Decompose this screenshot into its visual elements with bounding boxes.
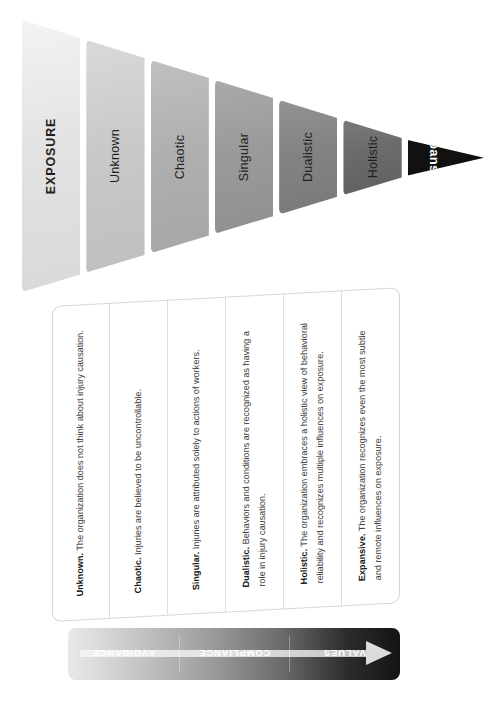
- wedge-band-label: Dualistic: [301, 132, 315, 182]
- wedge-band-unknown: Unknown: [86, 40, 144, 273]
- description-text: Singular. Injuries are attributed solely…: [189, 322, 205, 591]
- arrow-zone-values: VALUES: [289, 628, 400, 680]
- wedge-band-expansive: Expansive: [408, 140, 484, 176]
- wedge-band-label: EXPOSURE: [44, 118, 58, 195]
- description-term: Expansive.: [357, 533, 367, 581]
- wedge-band-singular: Singular: [215, 80, 273, 234]
- wedge-band-label: Holistic: [366, 136, 380, 179]
- arrow-zone-divider: [289, 636, 290, 672]
- wedge-band-label: Unknown: [108, 129, 122, 183]
- description-cell-chaotic: Chaotic. Injuries are believed to be unc…: [110, 300, 168, 619]
- arrow-zone-compliance: COMPLIANCE: [179, 628, 290, 680]
- description-body: Injuries are attributed solely to action…: [191, 349, 201, 549]
- description-text: Chaotic. Injuries are believed to be unc…: [131, 325, 147, 594]
- description-cell-expansive: Expansive. The organization recognizes e…: [342, 287, 400, 606]
- description-term: Chaotic.: [133, 557, 143, 593]
- wedge-band-label: Singular: [237, 133, 251, 181]
- exposure-wedge: EXPOSUREUnknownChaoticSingularDualisticH…: [0, 0, 486, 305]
- wedge-band-label: Chaotic: [173, 134, 187, 178]
- arrow-zone-avoidance: AVOIDANCE: [68, 628, 179, 680]
- description-cell-dualistic: Dualistic. Behaviors and conditions are …: [226, 293, 284, 612]
- description-term: Singular.: [191, 552, 201, 591]
- description-text: Unknown. The organization does not think…: [73, 328, 89, 597]
- description-cell-singular: Singular. Injuries are attributed solely…: [168, 297, 226, 616]
- description-term: Dualistic.: [241, 547, 251, 588]
- wedge-band-chaotic: Chaotic: [151, 60, 209, 253]
- wedge-band-exposure: EXPOSURE: [22, 20, 80, 292]
- maturity-description-panel: Unknown. The organization does not think…: [52, 287, 400, 622]
- maturity-progression-arrow: AVOIDANCECOMPLIANCEVALUES: [68, 628, 400, 680]
- wedge-band-dualistic: Dualistic: [279, 100, 337, 214]
- description-body: The organization does not think about in…: [75, 330, 85, 551]
- description-term: Holistic.: [299, 549, 309, 585]
- description-cell-holistic: Holistic. The organization embraces a ho…: [284, 290, 342, 609]
- description-cell-unknown: Unknown. The organization does not think…: [52, 303, 110, 622]
- description-body: The organization embraces a holistic vie…: [299, 323, 325, 584]
- description-term: Unknown.: [75, 553, 85, 597]
- description-text: Holistic. The organization embraces a ho…: [297, 315, 328, 585]
- description-text: Dualistic. Behaviors and conditions are …: [239, 318, 270, 588]
- arrow-zone-divider: [179, 636, 180, 672]
- wedge-band-label: Expansive: [426, 140, 441, 176]
- wedge-band-holistic: Holistic: [343, 120, 401, 195]
- description-text: Expansive. The organization recognizes e…: [355, 312, 386, 582]
- description-body: Injuries are believed to be uncontrollab…: [133, 389, 143, 555]
- diagram-canvas: EXPOSUREUnknownChaoticSingularDualisticH…: [0, 0, 486, 701]
